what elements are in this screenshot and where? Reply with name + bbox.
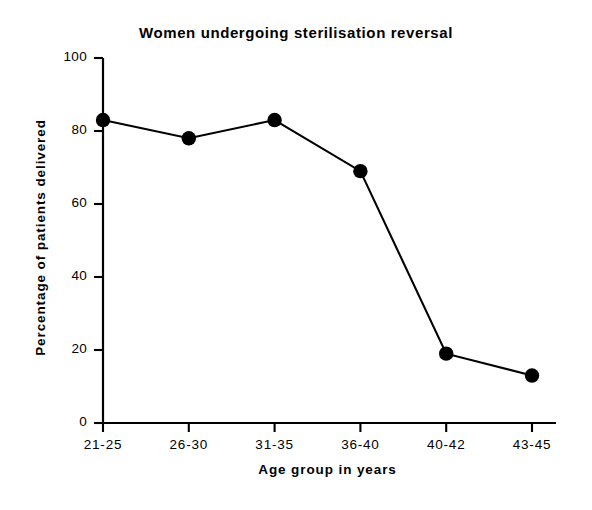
- data-point-marker: [96, 113, 110, 127]
- data-point-marker: [525, 368, 539, 382]
- data-point-marker: [267, 113, 281, 127]
- x-axis-tick-label: 26-30: [144, 437, 234, 452]
- y-axis-tick-label: 60: [11, 195, 87, 210]
- x-axis-tick-label: 43-45: [487, 437, 577, 452]
- x-axis-tick-label: 31-35: [230, 437, 320, 452]
- data-markers-group: [96, 113, 539, 383]
- series-line: [103, 120, 532, 375]
- x-axis-tick-label: 21-25: [58, 437, 148, 452]
- axes-group: [103, 58, 556, 423]
- plot-canvas: [0, 0, 592, 510]
- y-axis-tick-label: 80: [11, 122, 87, 137]
- chart-figure: Women undergoing sterilisation reversal …: [0, 0, 592, 510]
- y-axis-tick-label: 100: [11, 49, 87, 64]
- y-axis-tick-label: 40: [11, 268, 87, 283]
- data-point-marker: [353, 164, 367, 178]
- data-point-marker: [182, 131, 196, 145]
- x-ticks-group: [103, 423, 532, 432]
- x-axis-tick-label: 40-42: [401, 437, 491, 452]
- y-axis-tick-label: 20: [11, 341, 87, 356]
- data-point-marker: [439, 346, 453, 360]
- data-series-group: [96, 113, 539, 383]
- x-axis-tick-label: 36-40: [315, 437, 405, 452]
- y-axis-tick-label: 0: [11, 414, 87, 429]
- y-ticks-group: [94, 58, 103, 423]
- plot-area: 020406080100 21-2526-3031-3536-4040-4243…: [0, 0, 592, 510]
